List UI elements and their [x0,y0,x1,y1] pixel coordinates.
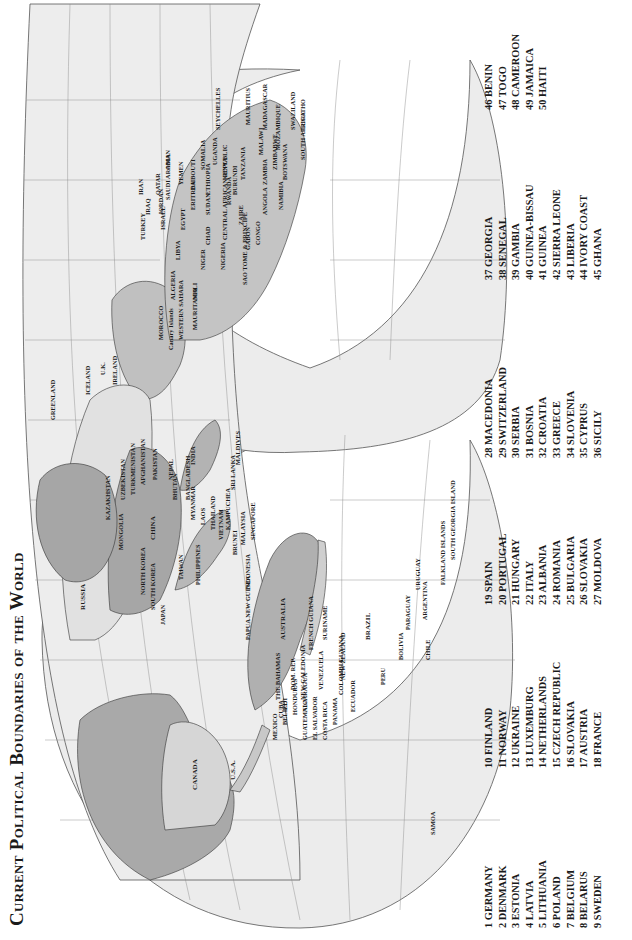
label-zambia: ZAMBIA [262,159,268,185]
label-uk: U.K. [100,362,106,375]
label-laos: LAOS [200,508,206,525]
legend-item: 28 MACEDONIA [482,367,496,458]
label-new-caledonia: NEW CALEDONIA [300,645,306,700]
legend-item: 32 CROATIA [536,367,550,458]
legend-column-2: 10 FINLAND11 NORWAY12 UKRAINE13 LUXEMBUR… [482,662,604,768]
label-ireland: IRELAND [112,356,118,385]
legend-item: 40 GUINEA-BISSAU [523,184,537,280]
label-seychelles: SEYCHELLES [215,88,221,130]
label-iran: IRAN [138,179,144,195]
label-botswana: BOTSWANA [282,144,288,180]
label-paraguay: PARAGUAY [405,595,411,630]
legend-item: 24 ROMANIA [550,533,564,605]
legend-item: 13 LUXEMBURG [523,662,537,768]
legend-item: 47 TOGO [496,34,510,110]
label-mongolia: MONGOLIA [118,513,124,550]
legend-item: 9 SWEDEN [591,860,605,928]
legend-item: 33 GREECE [550,367,564,458]
legend-item: 43 LIBERIA [564,184,578,280]
map-page: Current Political Boundaries of the Worl… [0,0,632,940]
legend-item: 8 BELARUS [577,860,591,928]
label-mauritius: MAURITIUS [245,88,251,125]
legend-item: 38 SENEGAL [496,184,510,280]
legend-item: 18 FRANCE [591,662,605,768]
label-south-korea: SOUTH KOREA [150,563,156,610]
label-rwanda: RWANDA [226,177,232,205]
label-uzbekistan: UZBEKISTAN [120,459,126,500]
legend-item: 37 GEORGIA [482,184,496,280]
label-uganda: UGANDA [212,137,218,165]
legend-item: 23 ALBANIA [536,533,550,605]
label-israel: ISRAEL [160,206,166,230]
label-nigeria: NIGERIA [220,242,226,270]
label-french-guiana: FRENCH GUIANA [308,596,314,650]
legend-item: 15 CZECH REPUBLIC [550,662,564,768]
legend-item: 20 PORTUGAL [496,533,510,605]
legend-item: 2 DENMARK [496,860,510,928]
legend-item: 50 HAITI [536,34,550,110]
label-south-georgia: SOUTH GEORGIA ISLAND [450,480,456,560]
label-thailand: THAILAND [210,496,216,530]
legend-item: 27 MOLDOVA [591,533,605,605]
label-ethiopia: ETHIOPIA [205,163,211,195]
label-iceland: ICELAND [85,366,91,395]
legend-item: 25 BULGARIA [564,533,578,605]
label-japan: JAPAN [160,605,166,625]
label-kampuchea: KAMPUCHEA [225,488,231,530]
label-congo: CONGO [255,221,261,245]
label-el-salvador: EL SALVADOR [312,696,318,740]
label-bolivia: BOLIVIA [398,632,404,660]
label-suriname: SURINAME [322,606,328,641]
legend-item: 14 NETHERLANDS [536,662,550,768]
label-western-sahara: WESTERN SAHARA [178,280,184,340]
label-fiji: FIJI [282,698,288,710]
label-angola: ANGOLA [262,187,268,215]
label-kazakhstan: KAZAKHSTAN [105,475,111,520]
legend-column-6: 46 BENIN47 TOGO48 CAMEROON49 JAMAICA50 H… [482,34,550,110]
label-egypt: EGYPT [180,208,186,230]
label-sao-tome: SAO TOME & PRINCIPE [242,212,248,285]
legend-item: 22 ITALY [523,533,537,605]
legend-item: 29 SWITZERLAND [496,367,510,458]
label-madagascar: MADAGASCAR [262,84,268,130]
label-namibia: NAMIBIA [278,181,284,210]
label-morocco: MOROCCO [158,306,164,340]
legend-item: 41 GUINEA [536,184,550,280]
label-papua-new-guinea: PAPUA NEW GUINEA [245,576,251,640]
label-saudi-arabia: SAUDI ARABIA [165,154,171,200]
legend-item: 36 SICILY [591,367,605,458]
label-bahamas: THE BAHAMAS [275,653,281,700]
legend-item: 30 SERBIA [509,367,523,458]
label-bhutan: BHUTAN [172,473,178,500]
label-canary-islands: Canary Islands [168,308,174,350]
legend-item: 3 ESTONIA [509,860,523,928]
legend-item: 6 POLAND [550,860,564,928]
label-peru: PERU [380,668,386,685]
label-yemen: YEMEN [178,161,184,185]
label-argentina: ARGENTINA [422,581,428,620]
label-pakistan: PAKISTAN [152,448,158,480]
legend-item: 7 BELGIUM [564,860,578,928]
label-chile: CHILE [425,640,431,660]
label-north-korea: NORTH KOREA [140,547,146,595]
label-australia: AUSTRALIA [280,598,287,640]
label-ecuador: ECUADOR [350,680,356,712]
label-uruguay: URUGUAY [415,558,421,590]
label-malaysia: MALAYSIA [240,511,246,545]
label-maldives: MALDIVES [235,431,241,465]
label-eritrea: ERITREA [190,181,196,210]
label-costa-rica: COSTA RICA [322,701,328,740]
label-dom-rep: DOM. REP. [290,658,296,690]
label-philippines: PHILIPPINES [195,544,201,585]
legend-column-4: 28 MACEDONIA29 SWITZERLAND30 SERBIA31 BO… [482,367,604,458]
label-russia: RUSSIA [80,584,87,610]
label-turkmenistan: TURKMENISTAN [130,443,136,495]
legend-item: 26 SLOVAKIA [577,533,591,605]
legend-item: 4 LATVIA [523,860,537,928]
legend-item: 35 CYPRUS [577,367,591,458]
label-samoa: SAMOA [430,811,436,835]
label-mozambique: MOZAMBIQUE [275,104,281,150]
legend-column-1: 1 GERMANY2 DENMARK3 ESTONIA4 LATVIA5 LIT… [482,860,604,928]
label-brunei: BRUNEI [232,530,238,555]
label-singapore: SINGAPORE [250,502,256,540]
